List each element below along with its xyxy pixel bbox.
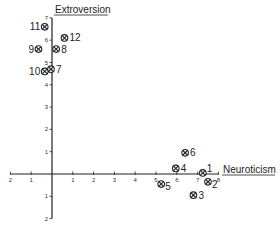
- point-label: 7: [56, 64, 62, 75]
- y-tick-label: 1: [45, 149, 49, 155]
- point-label: 4: [181, 163, 187, 174]
- x-tick-label: 4: [134, 177, 138, 183]
- y-tick-label: 2: [45, 216, 49, 222]
- y-tick-label: 2: [45, 126, 49, 132]
- x-tick-label: 2: [9, 177, 13, 183]
- x-tick-label: 7: [196, 177, 200, 183]
- data-point-2: 2: [205, 179, 218, 190]
- point-label: 6: [190, 147, 196, 158]
- data-point-7: 7: [48, 64, 62, 75]
- x-tick-label: 5: [154, 177, 158, 183]
- x-tick-label: 6: [175, 177, 179, 183]
- data-point-5: 5: [158, 181, 171, 192]
- point-label: 8: [61, 44, 67, 55]
- y-tick-label: 3: [45, 104, 49, 110]
- x-axis-title: Neuroticism: [223, 164, 276, 175]
- point-label: 10: [29, 66, 41, 77]
- point-label: 11: [30, 21, 41, 32]
- x-tick-label: 1: [30, 177, 34, 183]
- scatter-chart: 2112345678211234567 123456789101112 Neur…: [0, 0, 280, 230]
- data-point-6: 6: [182, 147, 196, 158]
- y-tick-label: 6: [45, 37, 49, 43]
- y-tick-label: 7: [45, 15, 49, 21]
- x-tick-label: 3: [113, 177, 117, 183]
- x-tick-label: 2: [92, 177, 96, 183]
- data-point-12: 12: [61, 32, 81, 43]
- y-tick-label: 5: [45, 60, 49, 66]
- point-label: 2: [212, 179, 218, 190]
- x-tick-label: 1: [71, 177, 75, 183]
- y-tick-label: 4: [45, 82, 49, 88]
- point-label: 5: [165, 181, 171, 192]
- data-point-10: 10: [29, 66, 48, 77]
- data-point-8: 8: [53, 44, 67, 55]
- point-label: 12: [69, 32, 81, 43]
- data-point-11: 11: [30, 21, 48, 32]
- point-label: 9: [28, 44, 34, 55]
- point-label: 3: [198, 190, 204, 201]
- data-point-4: 4: [172, 163, 186, 174]
- y-axis-title: Extroversion: [55, 4, 111, 15]
- data-point-3: 3: [190, 190, 204, 201]
- point-label: 1: [207, 163, 213, 174]
- data-point-9: 9: [28, 44, 41, 55]
- y-tick-label: 1: [45, 193, 49, 199]
